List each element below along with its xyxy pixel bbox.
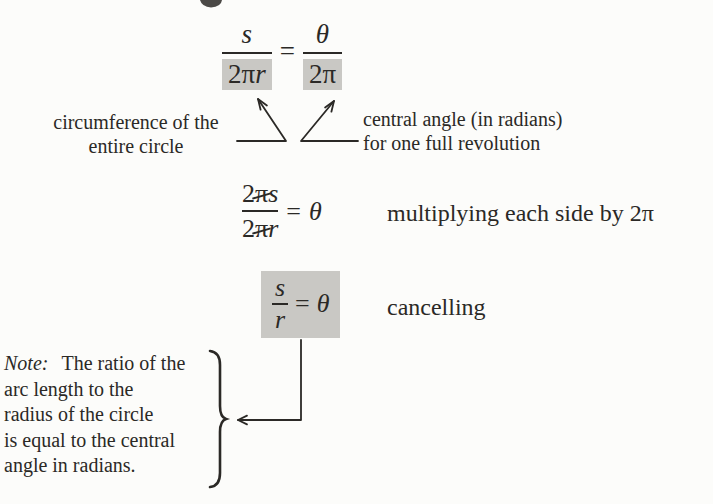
result-theta: θ — [309, 198, 322, 225]
label-central-angle-line1: central angle (in radians) — [363, 107, 562, 131]
equation-ratio-setup: s 2πr = θ 2π — [222, 20, 342, 90]
numerator-s: s — [242, 20, 253, 52]
pi-cancelled: π — [255, 216, 268, 242]
fraction-left: s 2πr — [222, 20, 272, 90]
page-edge-artifact — [200, 0, 222, 8]
label-circumference: circumference of the entire circle — [38, 110, 234, 158]
numerator-theta: θ — [316, 20, 329, 52]
highlight-denominator-right: 2π — [303, 59, 342, 90]
fraction-bar — [303, 52, 342, 54]
equals-sign: = — [280, 38, 295, 65]
label-circumference-line1: circumference of the — [38, 110, 234, 134]
numerator-2pis: 2πs — [242, 181, 278, 210]
highlight-denominator-left: 2πr — [222, 59, 272, 90]
label-central-angle: central angle (in radians) for one full … — [363, 107, 562, 155]
note-line: Note:The ratio of the — [4, 351, 219, 377]
note-label: Note: — [4, 352, 48, 374]
equation-multiplied: 2πs 2πr = θ — [242, 181, 322, 242]
highlight-result-equation: s r = θ — [261, 271, 340, 338]
coeff-2: 2 — [242, 179, 255, 208]
equals-sign: = — [286, 198, 301, 225]
fraction-right: θ 2π — [303, 20, 342, 90]
fraction-cancelled: 2πs 2πr — [242, 181, 278, 242]
caption-multiplying: multiplying each side by 2π — [387, 200, 654, 226]
note-block: Note:The ratio of the arc length to the … — [4, 351, 219, 479]
pi-cancelled: π — [255, 181, 268, 207]
equals-sign: = — [295, 289, 310, 319]
numerator-s: s — [275, 276, 285, 303]
fraction-bar — [222, 52, 272, 54]
coeff-2pi: 2π — [228, 59, 255, 89]
note-arrow — [238, 340, 301, 424]
pointer-arrow-left — [237, 99, 286, 141]
textbook-page: s 2πr = θ 2π circumference of the entire… — [0, 0, 713, 504]
label-central-angle-line2: for one full revolution — [363, 131, 562, 155]
note-line: radius of the circle — [4, 402, 219, 428]
note-line1-text: The ratio of the — [61, 352, 185, 374]
denominator-2pir: 2πr — [242, 216, 278, 242]
result-theta: θ — [317, 289, 330, 319]
note-line: angle in radians. — [4, 453, 219, 479]
fraction-result: s r — [272, 276, 288, 332]
denominator-r: r — [275, 308, 285, 332]
label-circumference-line2: entire circle — [38, 134, 234, 158]
caption-cancelling: cancelling — [387, 294, 486, 320]
var-r: r — [255, 59, 266, 89]
note-line: is equal to the central — [4, 428, 219, 454]
fraction-bar — [242, 210, 278, 212]
note-line: arc length to the — [4, 377, 219, 403]
coeff-2: 2 — [242, 214, 255, 243]
pointer-arrow-right — [301, 101, 358, 141]
